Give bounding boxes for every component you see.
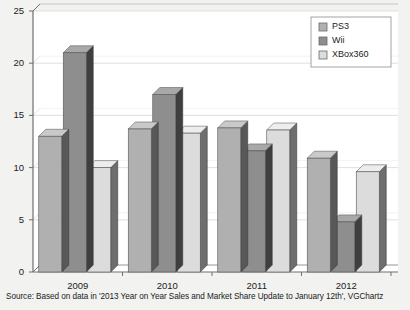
bar-front-face [307,158,330,272]
bar-ps3-2012 [307,151,337,272]
bar-side-face [176,88,183,272]
bar-ps3-2011 [218,121,248,272]
bar-side-face [111,161,118,272]
bar-side-face [62,129,69,272]
y-axis-depth [33,4,40,11]
chart-source-caption: Source: Based on data in '2013 Year on Y… [6,292,383,301]
bar-side-face [151,122,158,272]
bar-side-face [265,144,272,272]
x-tick-label-2010: 2010 [132,280,202,291]
x-tick-label-2012: 2012 [311,280,381,291]
bar-side-face [86,46,93,272]
bar-ps3-2009 [39,129,69,272]
bar-front-face [218,128,241,272]
bar-side-face [290,123,297,272]
legend-swatch-xbox360 [319,51,327,59]
bar-front-face [128,129,151,272]
bar-front-face [39,136,62,272]
legend-swatch-wii [319,37,327,45]
y-tick-label: 10 [2,162,24,173]
bar-side-face [379,165,386,272]
x-tick-label-2011: 2011 [222,280,292,291]
y-tick-label: 15 [2,109,24,120]
legend-label-ps3: PS3 [332,21,349,31]
y-tick-label: 5 [2,214,24,225]
bar-ps3-2010 [128,122,158,272]
x-tick-label-2009: 2009 [43,280,113,291]
y-tick-label: 0 [2,266,24,277]
legend-label-xbox360: XBox360 [332,49,369,59]
y-tick-label: 25 [2,5,24,16]
bar-chart [0,0,410,310]
y-tick-label: 20 [2,57,24,68]
bar-side-face [200,126,207,272]
bar-side-face [330,151,337,272]
legend-swatch-ps3 [319,23,327,31]
legend-label-wii: Wii [332,35,345,45]
bar-side-face [241,121,248,272]
bar-side-face [355,215,362,272]
